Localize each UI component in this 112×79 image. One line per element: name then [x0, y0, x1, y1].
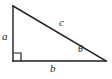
right-triangle-figure: a b c θ [0, 0, 112, 79]
label-leg-a: a [2, 31, 8, 42]
right-angle-marker-icon [13, 53, 21, 61]
label-hypotenuse-c: c [59, 17, 64, 28]
hypotenuse-line [13, 6, 106, 61]
triangle-drawing [0, 0, 112, 79]
label-leg-b: b [50, 63, 56, 74]
label-angle-theta: θ [78, 44, 83, 54]
